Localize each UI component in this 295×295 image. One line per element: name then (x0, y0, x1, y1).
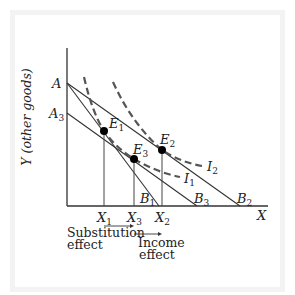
income-effect-label-line2: effect (139, 247, 175, 262)
consumer-choice-diagram: Y (other goods) A A3 B1 B3 B2 E1 E3 E2 I… (0, 0, 295, 295)
label-i1: I1 (183, 171, 195, 188)
label-e3: E3 (132, 142, 149, 159)
budget-line-a-b1 (67, 83, 159, 206)
label-a: A (51, 76, 61, 91)
label-a3: A3 (48, 106, 64, 123)
label-b1: B1 (139, 191, 155, 208)
point-e1 (100, 127, 108, 135)
label-x2: X2 (154, 210, 170, 227)
y-axis-label: Y (other goods) (19, 68, 34, 166)
budget-line-a-b2 (67, 83, 240, 206)
substitution-effect-label-line2: effect (67, 237, 103, 252)
x-axis-label: X (256, 208, 267, 223)
label-b3: B3 (193, 191, 210, 208)
label-e1: E1 (108, 116, 124, 133)
point-e2 (158, 146, 166, 154)
label-e2: E2 (159, 132, 175, 149)
label-b2: B2 (236, 191, 252, 208)
label-i2: I2 (206, 159, 218, 176)
